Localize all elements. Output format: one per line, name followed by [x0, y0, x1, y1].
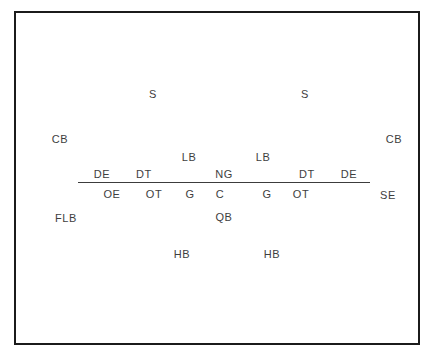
- player-label-guard-right: G: [262, 188, 271, 200]
- player-label-defensive-tackle-right: DT: [299, 168, 315, 180]
- player-label-quarterback: QB: [215, 211, 232, 223]
- player-label-safety-right: S: [301, 88, 309, 100]
- player-label-offensive-end: OE: [103, 188, 120, 200]
- diagram-frame: SSCBCBLBLBDEDTNGDTDEOEOTGCGOTSEFLBQBHBHB: [14, 11, 420, 345]
- player-label-flanker-back: FLB: [55, 212, 77, 224]
- player-label-guard-left: G: [185, 188, 194, 200]
- player-label-offensive-tackle-left: OT: [146, 188, 162, 200]
- player-label-defensive-end-left: DE: [94, 168, 110, 180]
- player-label-halfback-right: HB: [264, 248, 280, 260]
- player-label-cornerback-left: CB: [52, 133, 68, 145]
- player-label-halfback-left: HB: [174, 248, 190, 260]
- formation-diagram-screenshot: SSCBCBLBLBDEDTNGDTDEOEOTGCGOTSEFLBQBHBHB: [0, 0, 428, 358]
- player-label-center: C: [216, 188, 225, 200]
- player-label-nose-guard: NG: [215, 168, 233, 180]
- player-label-linebacker-right: LB: [256, 151, 271, 163]
- player-label-linebacker-left: LB: [182, 151, 197, 163]
- player-label-cornerback-right: CB: [386, 133, 402, 145]
- player-label-defensive-end-right: DE: [341, 168, 357, 180]
- player-label-offensive-tackle-right: OT: [293, 188, 309, 200]
- line-of-scrimmage: [78, 182, 370, 183]
- player-label-safety-left: S: [149, 88, 157, 100]
- player-label-split-end: SE: [380, 189, 396, 201]
- player-label-defensive-tackle-left: DT: [136, 168, 152, 180]
